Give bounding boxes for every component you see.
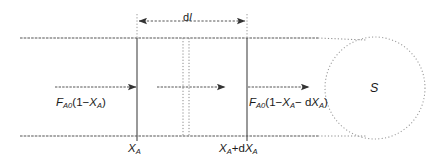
cross-section-label: S — [370, 82, 378, 95]
outlet-conversion-dX-subscript: A — [253, 147, 258, 156]
outlet-minus-d: − d — [295, 96, 311, 108]
reactor-differential-element-figure: dl FA0(1−XA) FA0(1−XA− dXA) XA XA+dXA S — [0, 0, 429, 167]
outlet-open-paren: (1− — [265, 96, 282, 108]
dimension-label-symbol: l — [189, 11, 191, 23]
dimension-label: dl — [183, 12, 192, 23]
outlet-F-symbol: F — [249, 96, 256, 108]
outlet-conversion-plus-d: +d — [232, 142, 245, 154]
inlet-molar-flow-label: FA0(1−XA) — [56, 97, 106, 109]
outlet-conversion-subscript: A — [227, 147, 232, 156]
inlet-X-subscript: A — [97, 101, 102, 110]
inlet-F-symbol: F — [56, 96, 63, 108]
inlet-conversion-X: X — [128, 142, 136, 154]
outlet-molar-flow-label: FA0(1−XA− dXA) — [249, 97, 328, 109]
outlet-dX-subscript: A — [319, 101, 324, 110]
inlet-conversion-subscript: A — [136, 147, 141, 156]
outlet-F-subscript: A0 — [256, 101, 265, 110]
outlet-conversion-X: X — [219, 142, 227, 154]
inlet-close-paren: ) — [102, 96, 106, 108]
inlet-X-symbol: X — [89, 96, 97, 108]
outlet-dX-symbol: X — [311, 96, 319, 108]
inlet-F-subscript: A0 — [63, 101, 72, 110]
outlet-conversion-label: XA+dXA — [219, 143, 258, 155]
outlet-X-symbol: X — [282, 96, 290, 108]
diagram-canvas — [0, 0, 429, 167]
outlet-conversion-dX: X — [245, 142, 253, 154]
inlet-open-paren: (1− — [72, 96, 89, 108]
inlet-conversion-label: XA — [128, 143, 141, 155]
outlet-close-paren: ) — [324, 96, 328, 108]
outlet-X-subscript: A — [290, 101, 295, 110]
